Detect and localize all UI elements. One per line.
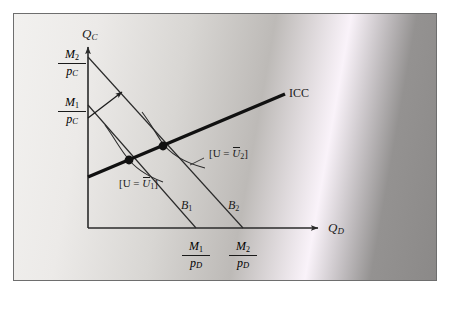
y-intercept-m2-over-pc: M2 pC [58, 48, 86, 78]
icc-line [88, 94, 285, 177]
icc-label: ICC [289, 87, 309, 99]
y-axis-label: QC [82, 27, 97, 42]
indifference-curve-1-label: [U = U1] [119, 178, 158, 191]
tangency-point-2 [159, 142, 168, 151]
budget-shift-arrow [88, 92, 122, 118]
figure-container: QC QD M2 pC M1 pC M1 pD M2 pD B1 B2 [U =… [0, 0, 450, 309]
budget-line-1-label: B1 [181, 199, 192, 213]
y-intercept-m1-over-pc: M1 pC [58, 96, 86, 126]
budget-line-2-label: B2 [228, 199, 239, 213]
x-axis-label: QD [328, 221, 344, 236]
x-intercept-m1-over-pd: M1 pD [182, 240, 210, 270]
x-intercept-m2-over-pd: M2 pD [229, 240, 257, 270]
tangency-point-1 [125, 156, 134, 165]
budget-line-1 [88, 105, 196, 228]
indifference-curve-2-label: [U = U2] [209, 148, 248, 161]
axes-group [88, 47, 318, 228]
indifference-curve-2-leader [190, 158, 204, 165]
